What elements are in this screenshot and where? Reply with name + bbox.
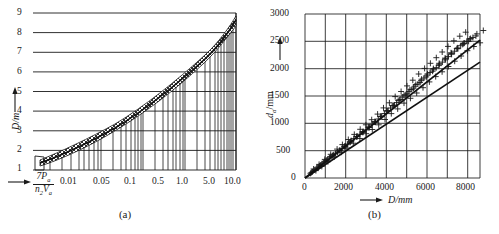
chart-a-x-axis-label: 7Pa n2Va bbox=[33, 172, 54, 196]
chart-panel-a: 9 8 7 6 5 4 3 2 1 D/m 0.01 0.05 0.1 0.5 … bbox=[0, 0, 250, 234]
chart-a-xtick-001: 0.01 bbox=[60, 176, 77, 186]
chart-panel-b: 3000 2500 2000 1500 1000 500 0 da/mm 0 2… bbox=[250, 0, 499, 234]
chart-b-x-axis-label: D/mm bbox=[388, 194, 412, 205]
chart-b-xtick-6000: 6000 bbox=[416, 182, 435, 192]
chart-a-x-label-numerator: 7P bbox=[37, 171, 48, 181]
chart-a-y-axis-label: D/m bbox=[10, 113, 21, 130]
chart-a-xtick-01: 0.1 bbox=[124, 176, 136, 186]
chart-a-ytick-9: 9 bbox=[17, 7, 22, 17]
chart-a-xtick-005: 0.05 bbox=[93, 176, 110, 186]
chart-b-y-label-sub: a bbox=[270, 110, 277, 113]
chart-b-ytick-2000: 2000 bbox=[270, 63, 289, 73]
chart-a-x-axis-arrow bbox=[8, 179, 31, 184]
chart-b-ytick-500: 500 bbox=[276, 145, 290, 155]
chart-a-xtick-05: 0.5 bbox=[152, 176, 164, 186]
chart-b-ytick-0: 0 bbox=[291, 172, 296, 182]
figure-root: 9 8 7 6 5 4 3 2 1 D/m 0.01 0.05 0.1 0.5 … bbox=[0, 0, 499, 234]
chart-b-xtick-8000: 8000 bbox=[456, 182, 475, 192]
chart-b-xtick-4000: 4000 bbox=[375, 182, 394, 192]
chart-a-xtick-100: 10.0 bbox=[224, 176, 241, 186]
chart-b-ytick-2500: 2500 bbox=[270, 35, 289, 45]
chart-a-ytick-1: 1 bbox=[17, 163, 22, 173]
chart-a-canvas bbox=[0, 0, 250, 234]
chart-a-xtick-50: 5.0 bbox=[203, 176, 215, 186]
chart-a-ytick-6: 6 bbox=[17, 66, 22, 76]
chart-a-ytick-7: 7 bbox=[17, 46, 22, 56]
chart-a-ytick-5: 5 bbox=[17, 86, 22, 96]
chart-b-xtick-0: 0 bbox=[302, 182, 307, 192]
chart-b-xtick-2000: 2000 bbox=[334, 182, 353, 192]
chart-a-x-label-denominator-sub2: a bbox=[49, 189, 52, 196]
chart-a-ytick-2: 2 bbox=[17, 144, 22, 154]
chart-a-xtick-10: 1.0 bbox=[176, 176, 188, 186]
chart-a-caption: (a) bbox=[0, 208, 250, 220]
chart-b-y-label-unit: /mm bbox=[264, 91, 275, 109]
chart-b-upper-regression-line bbox=[305, 40, 480, 178]
chart-b-caption: (b) bbox=[250, 208, 499, 220]
chart-b-y-axis-label: da/mm bbox=[259, 91, 277, 118]
chart-a-gridlines bbox=[33, 13, 236, 170]
chart-b-ytick-1000: 1000 bbox=[270, 117, 289, 127]
chart-b-lower-regression-line bbox=[305, 62, 480, 178]
chart-b-y-label-var: d bbox=[264, 113, 275, 118]
chart-b-ytick-3000: 3000 bbox=[270, 8, 289, 18]
chart-a-x-label-numerator-sub: a bbox=[47, 176, 50, 183]
chart-a-ytick-8: 8 bbox=[17, 27, 22, 37]
chart-b-x-axis-arrow bbox=[360, 197, 383, 202]
